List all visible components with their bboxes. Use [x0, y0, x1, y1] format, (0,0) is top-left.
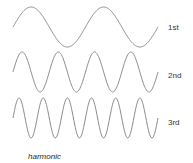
- wave-1st-harmonic: [13, 7, 158, 47]
- wave-2nd-harmonic: [13, 52, 158, 92]
- harmonic-waves-diagram: [0, 0, 193, 163]
- label-3rd: 3rd: [168, 119, 180, 127]
- label-2nd: 2nd: [168, 72, 181, 80]
- wave-3rd-harmonic: [13, 98, 158, 138]
- label-1st: 1st: [168, 24, 179, 32]
- caption-harmonic: harmonic: [28, 153, 61, 161]
